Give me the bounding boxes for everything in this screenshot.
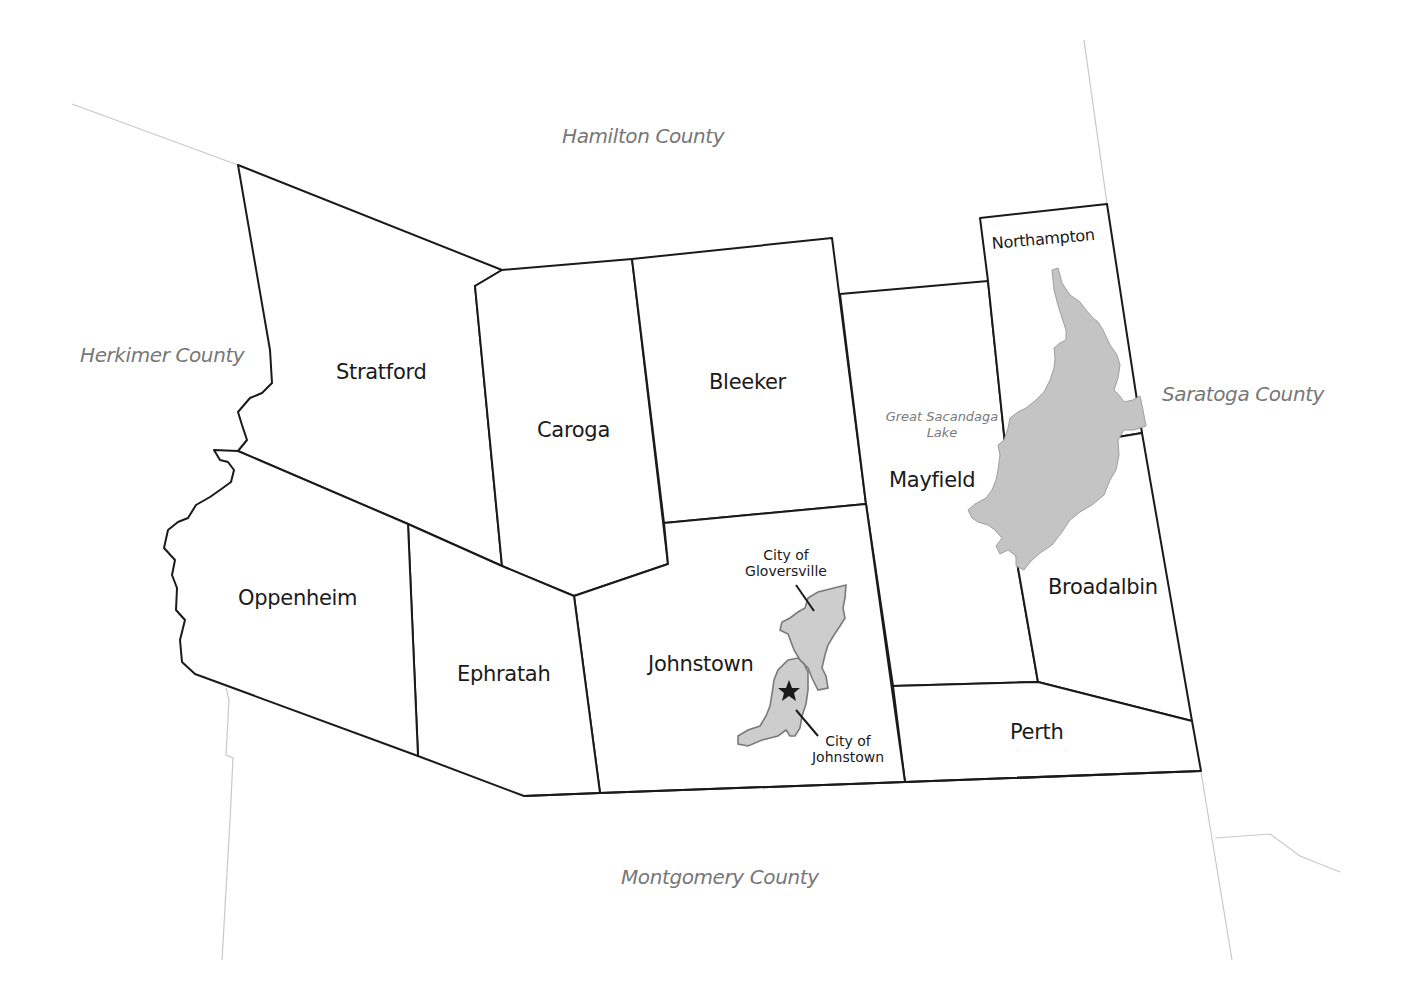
label-johnstown: Johnstown — [648, 652, 753, 676]
label-bleeker: Bleeker — [709, 370, 786, 394]
label-mayfield: Mayfield — [889, 468, 975, 492]
label-herkimer-county: Herkimer County — [80, 343, 244, 367]
label-saratoga-county: Saratoga County — [1162, 382, 1324, 406]
saratoga-montgomery-side-border — [1215, 834, 1340, 872]
label-city-gloversville: City of Gloversville — [736, 547, 836, 579]
label-perth: Perth — [1010, 720, 1064, 744]
label-caroga: Caroga — [537, 418, 610, 442]
label-great-sacandaga-lake: Great Sacandaga Lake — [882, 409, 1002, 441]
label-ephratah: Ephratah — [457, 662, 550, 686]
gloversville-label-line1: City of — [736, 547, 836, 563]
gloversville-label-line2: Gloversville — [736, 563, 836, 579]
label-oppenheim: Oppenheim — [238, 586, 357, 610]
label-city-johnstown: City of Johnstown — [800, 733, 896, 765]
label-stratford: Stratford — [336, 360, 426, 384]
label-montgomery-county: Montgomery County — [621, 865, 819, 889]
lake-label-line1: Great Sacandaga — [882, 409, 1002, 425]
label-hamilton-county: Hamilton County — [562, 124, 724, 148]
hamilton-saratoga-border — [1084, 40, 1107, 204]
johnstown-label-line1: City of — [800, 733, 896, 749]
saratoga-montgomery-border — [1201, 772, 1232, 960]
label-broadalbin: Broadalbin — [1048, 575, 1158, 599]
johnstown-label-line2: Johnstown — [800, 749, 896, 765]
herkimer-montgomery-border — [222, 688, 233, 960]
hamilton-herkimer-border — [72, 104, 238, 165]
lake-label-line2: Lake — [882, 425, 1002, 441]
